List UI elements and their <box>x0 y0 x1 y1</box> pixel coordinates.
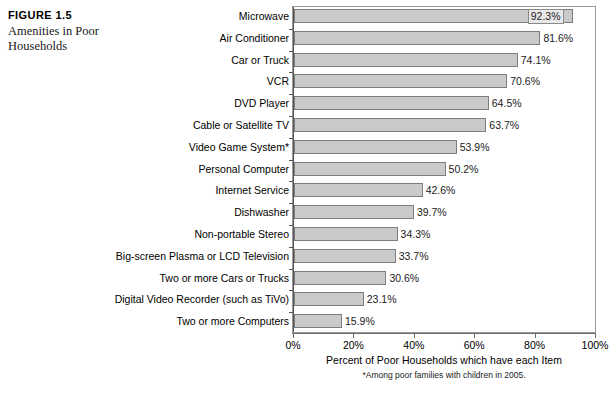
bar-value-label: 39.7% <box>417 204 447 220</box>
y-axis-tick <box>289 51 293 52</box>
bar <box>294 96 489 110</box>
chart-plot-frame: Microwave92.3%Air Conditioner81.6%Car or… <box>292 6 596 333</box>
x-axis-line <box>292 333 596 334</box>
bar <box>294 227 398 241</box>
bar-value-label: 42.6% <box>426 182 456 198</box>
bar-value-label: 74.1% <box>521 52 551 68</box>
category-label: Car or Truck <box>231 52 289 68</box>
bar-row: Non-portable Stereo34.3% <box>293 225 595 247</box>
bar <box>294 118 486 132</box>
bar-value-label: 92.3% <box>528 9 564 24</box>
bar-row: Cable or Satellite TV63.7% <box>293 116 595 138</box>
bar-value-label: 23.1% <box>367 291 397 307</box>
figure-number: FIGURE 1.5 <box>8 8 178 22</box>
bar-row: Video Game System*53.9% <box>293 138 595 160</box>
x-axis-tick-label: 100% <box>582 339 609 352</box>
bar-row: Two or more Cars or Trucks30.6% <box>293 269 595 291</box>
y-axis-tick <box>289 138 293 139</box>
y-axis-tick <box>289 160 293 161</box>
category-label: Two or more Computers <box>176 313 289 329</box>
category-label: Internet Service <box>215 182 289 198</box>
x-axis-tick <box>353 333 354 338</box>
bar-row: Two or more Computers15.9% <box>293 312 595 334</box>
y-axis-tick <box>289 29 293 30</box>
y-axis-tick <box>289 225 293 226</box>
bar <box>294 249 396 263</box>
bar-row: Digital Video Recorder (such as TiVo)23.… <box>293 290 595 312</box>
bar <box>294 205 414 219</box>
category-label: Big-screen Plasma or LCD Television <box>116 248 289 264</box>
bar <box>294 292 364 306</box>
y-axis-tick <box>289 94 293 95</box>
y-axis-tick <box>289 203 293 204</box>
bar-value-label: 33.7% <box>399 248 429 264</box>
category-label: Personal Computer <box>199 161 289 177</box>
category-label: Non-portable Stereo <box>194 226 289 242</box>
bar-row: Car or Truck74.1% <box>293 51 595 73</box>
x-axis-tick <box>595 333 596 338</box>
bar <box>294 31 540 45</box>
x-axis-tick <box>293 333 294 338</box>
x-axis-tick-label: 80% <box>524 339 545 352</box>
bar-value-label: 64.5% <box>492 95 522 111</box>
x-axis-tick-label: 40% <box>403 339 424 352</box>
y-axis-tick <box>289 116 293 117</box>
bar-value-label: 50.2% <box>449 161 479 177</box>
x-axis-tick <box>474 333 475 338</box>
bar-row: Dishwasher39.7% <box>293 203 595 225</box>
category-label: Dishwasher <box>234 204 289 220</box>
category-label: Microwave <box>239 8 289 24</box>
y-axis-tick <box>289 247 293 248</box>
y-axis-tick <box>289 312 293 313</box>
bar-value-label: 63.7% <box>489 117 519 133</box>
bar <box>294 53 518 67</box>
category-label: Two or more Cars or Trucks <box>159 270 289 286</box>
y-axis-tick <box>289 269 293 270</box>
category-label: Air Conditioner <box>220 30 289 46</box>
category-label: Digital Video Recorder (such as TiVo) <box>115 291 289 307</box>
x-axis-title: Percent of Poor Households which have ea… <box>292 353 596 367</box>
y-axis-tick <box>289 290 293 291</box>
x-axis-tick-label: 20% <box>343 339 364 352</box>
x-axis-tick <box>414 333 415 338</box>
figure-title: Amenities in Poor Households <box>8 24 128 54</box>
bar-row: Personal Computer50.2% <box>293 160 595 182</box>
category-label: Cable or Satellite TV <box>193 117 289 133</box>
bar-value-label: 15.9% <box>345 313 375 329</box>
bar-value-label: 53.9% <box>460 139 490 155</box>
bar <box>294 140 457 154</box>
bar-row: Internet Service42.6% <box>293 181 595 203</box>
bar-row: Big-screen Plasma or LCD Television33.7% <box>293 247 595 269</box>
bar-value-label: 70.6% <box>510 73 540 89</box>
bar <box>294 271 386 285</box>
bar-chart-plot: Microwave92.3%Air Conditioner81.6%Car or… <box>293 7 595 332</box>
figure-page: FIGURE 1.5 Amenities in Poor Households … <box>0 0 614 394</box>
bar-row: VCR70.6% <box>293 72 595 94</box>
category-label: DVD Player <box>234 95 289 111</box>
bar-row: DVD Player64.5% <box>293 94 595 116</box>
chart-footnote: *Among poor families with children in 20… <box>292 369 596 381</box>
x-axis-tick-label: 60% <box>464 339 485 352</box>
bar <box>294 314 342 328</box>
bar <box>294 162 446 176</box>
category-label: Video Game System* <box>189 139 289 155</box>
bar-row: Air Conditioner81.6% <box>293 29 595 51</box>
y-axis-tick <box>289 72 293 73</box>
x-axis-tick <box>535 333 536 338</box>
bar-value-label: 34.3% <box>401 226 431 242</box>
bar-value-label: 81.6% <box>543 30 573 46</box>
bar-row: Microwave92.3% <box>293 7 595 29</box>
x-axis-tick-label: 0% <box>285 339 300 352</box>
bar <box>294 183 423 197</box>
bar <box>294 74 507 88</box>
y-axis-tick <box>289 181 293 182</box>
figure-caption-block: FIGURE 1.5 Amenities in Poor Households <box>8 8 178 54</box>
category-label: VCR <box>267 73 289 89</box>
bar-value-label: 30.6% <box>389 270 419 286</box>
